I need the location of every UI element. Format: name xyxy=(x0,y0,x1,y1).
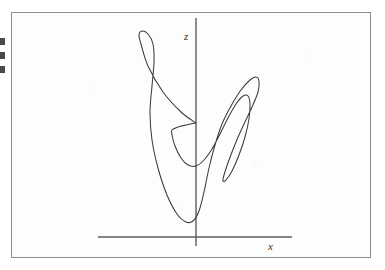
z-axis-label: z xyxy=(184,31,188,42)
figure-root: z x xyxy=(0,0,385,270)
x-axis-label: x xyxy=(268,241,273,252)
trajectory-curve xyxy=(139,31,259,223)
phase-portrait-plot xyxy=(0,0,385,270)
